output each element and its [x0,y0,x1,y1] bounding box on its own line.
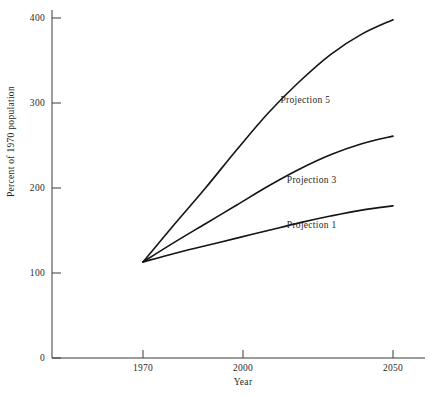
series-line-projection-3 [143,136,393,262]
population-projection-chart: 0 100 200 300 400 1970 2000 2050 Percent… [0,0,437,397]
y-tick-label-100: 100 [10,268,45,278]
series-line-projection-5 [143,20,393,262]
y-axis-title-text: Percent of 1970 population [6,86,16,197]
series-label-projection-3: Projection 3 [287,175,337,185]
series-label-projection-5: Projection 5 [281,95,331,105]
y-axis-title: Percent of 1970 population [6,183,16,197]
y-tick-label-0: 0 [10,353,45,363]
x-tick-label-2000: 2000 [233,363,253,373]
x-tick-label-2050: 2050 [383,363,403,373]
series-label-projection-1: Projection 1 [287,220,337,230]
y-tick-label-400: 400 [10,13,45,23]
x-tick-label-1970: 1970 [133,363,153,373]
x-axis-title: Year [234,377,253,387]
chart-plot-area [0,0,437,397]
series-line-projection-1 [143,206,393,262]
